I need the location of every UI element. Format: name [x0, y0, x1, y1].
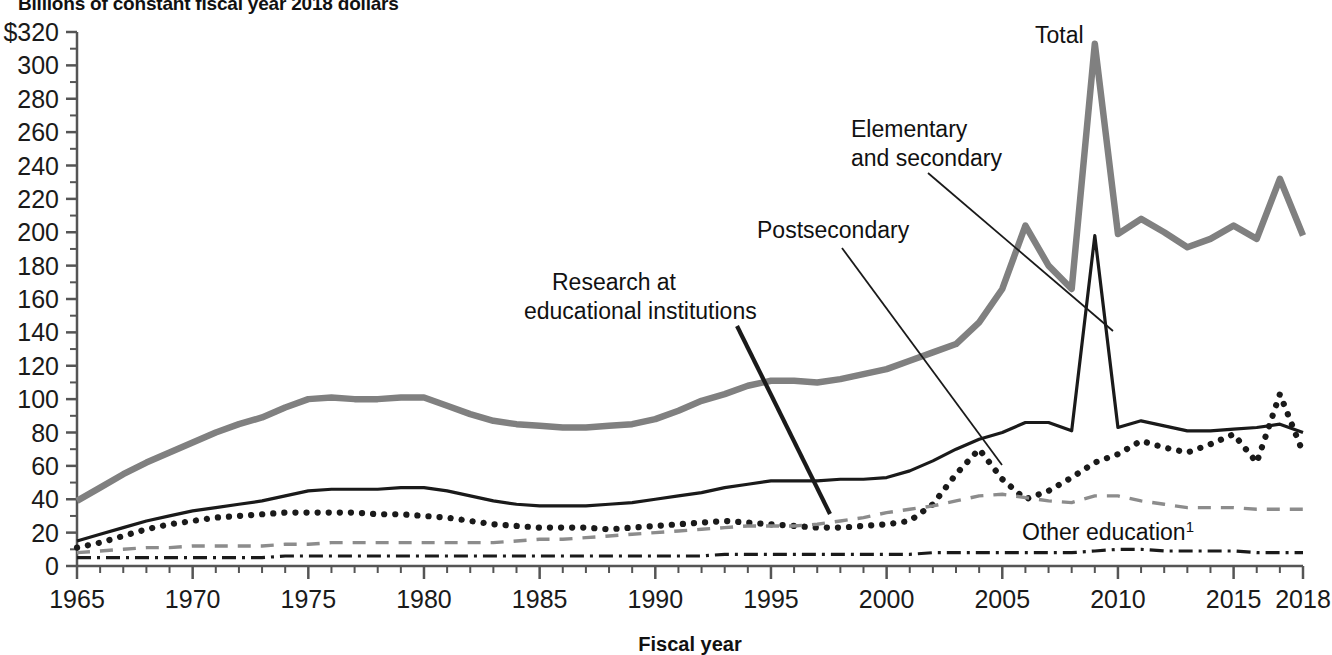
- annotation-postsecondary: Postsecondary: [757, 217, 910, 243]
- annotation-total: Total: [1035, 22, 1084, 48]
- annotation-elementary-line2: and secondary: [851, 145, 1002, 171]
- annotation-research-line2: educational institutions: [524, 298, 757, 324]
- annotation-other-education: Other education1: [1022, 518, 1194, 545]
- annotation-other-education-footnote: 1: [1186, 518, 1194, 535]
- chart-figure: Billions of constant fiscal year 2018 do…: [0, 0, 1332, 655]
- annotation-research-line1: Research at: [552, 269, 677, 295]
- annotation-other-education-text: Other education: [1022, 519, 1186, 545]
- annotation-layer: Total Elementary and secondary Postsecon…: [0, 0, 1332, 655]
- annotation-elementary-line1: Elementary: [851, 116, 968, 142]
